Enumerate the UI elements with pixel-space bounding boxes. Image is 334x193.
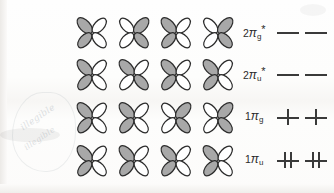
mo-label-2pi-g-star: 2πg* bbox=[243, 24, 266, 41]
level-r3-a[interactable] bbox=[277, 108, 299, 126]
orbital-r1c4 bbox=[199, 14, 237, 52]
pi-orbital-clover-icon bbox=[199, 56, 237, 94]
energy-level-line bbox=[277, 32, 299, 34]
level-r3-b[interactable] bbox=[305, 108, 327, 126]
energy-level-line bbox=[277, 160, 299, 162]
mo-label-symbol: π bbox=[249, 68, 257, 82]
mo-label-superscript: * bbox=[261, 23, 265, 35]
pi-orbital-clover-icon bbox=[115, 99, 153, 137]
orbital-r4c2 bbox=[115, 142, 153, 180]
orbital-r3c3 bbox=[157, 99, 195, 137]
level-r2-a[interactable] bbox=[277, 65, 299, 83]
energy-level-line bbox=[305, 74, 327, 76]
electron-mark bbox=[290, 152, 292, 168]
mo-label-superscript: * bbox=[261, 65, 265, 77]
energy-level-line bbox=[277, 74, 299, 76]
orbital-r2c4 bbox=[199, 56, 237, 94]
mo-label-symbol: π bbox=[251, 152, 259, 166]
electron-mark bbox=[284, 152, 286, 168]
pi-orbital-clover-icon bbox=[73, 99, 111, 137]
mo-label-subscript: u bbox=[259, 158, 263, 167]
mo-diagram: 2πg* bbox=[0, 0, 334, 193]
pi-orbital-clover-icon bbox=[199, 142, 237, 180]
pi-orbital-clover-icon bbox=[157, 99, 195, 137]
mo-label-symbol: π bbox=[249, 26, 257, 40]
energy-level-line bbox=[305, 160, 327, 162]
mo-label-2pi-u-star: 2πu* bbox=[243, 66, 266, 83]
mo-row-2pi-g-star: 2πg* bbox=[0, 14, 334, 56]
mo-label-1pi-g: 1πg bbox=[245, 110, 263, 124]
mo-row-2pi-u-star: 2πu* bbox=[0, 56, 334, 98]
mo-row-1pi-g: 1πg bbox=[0, 99, 334, 141]
orbital-r4c1 bbox=[73, 142, 111, 180]
pi-orbital-clover-icon bbox=[73, 142, 111, 180]
electron-mark bbox=[318, 152, 320, 168]
orbital-r2c2 bbox=[115, 56, 153, 94]
pi-orbital-clover-icon bbox=[199, 14, 237, 52]
orbital-r3c4 bbox=[199, 99, 237, 137]
pi-orbital-clover-icon bbox=[115, 14, 153, 52]
orbital-r2c1 bbox=[73, 56, 111, 94]
orbital-r1c3 bbox=[157, 14, 195, 52]
orbital-r1c2 bbox=[115, 14, 153, 52]
mo-label-subscript: g bbox=[259, 115, 263, 124]
pi-orbital-clover-icon bbox=[157, 56, 195, 94]
pi-orbital-clover-icon bbox=[73, 56, 111, 94]
mo-label-symbol: π bbox=[251, 109, 259, 123]
mo-row-1pi-u: 1πu bbox=[0, 142, 334, 184]
orbital-r2c3 bbox=[157, 56, 195, 94]
orbital-r1c1 bbox=[73, 14, 111, 52]
pi-orbital-clover-icon bbox=[157, 142, 195, 180]
orbital-r3c1 bbox=[73, 99, 111, 137]
pi-orbital-clover-icon bbox=[73, 14, 111, 52]
pi-orbital-clover-icon bbox=[115, 56, 153, 94]
electron-mark bbox=[312, 152, 314, 168]
orbital-r4c4 bbox=[199, 142, 237, 180]
pi-orbital-clover-icon bbox=[157, 14, 195, 52]
level-r4-b[interactable] bbox=[305, 151, 327, 169]
orbital-r3c2 bbox=[115, 99, 153, 137]
pi-orbital-clover-icon bbox=[199, 99, 237, 137]
energy-level-line bbox=[305, 32, 327, 34]
mo-label-1pi-u: 1πu bbox=[245, 153, 263, 167]
level-r2-b[interactable] bbox=[305, 65, 327, 83]
orbital-r4c3 bbox=[157, 142, 195, 180]
electron-mark bbox=[315, 109, 317, 125]
level-r4-a[interactable] bbox=[277, 151, 299, 169]
electron-mark bbox=[287, 109, 289, 125]
pi-orbital-clover-icon bbox=[115, 142, 153, 180]
level-r1-b[interactable] bbox=[305, 23, 327, 41]
level-r1-a[interactable] bbox=[277, 23, 299, 41]
